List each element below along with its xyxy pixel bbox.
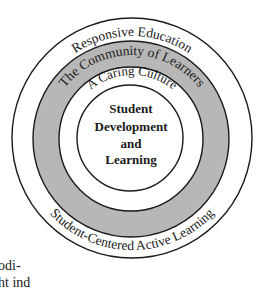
body-text-fragment-2: ht ind [0, 274, 30, 291]
center-label-line-2: Development [95, 119, 169, 134]
center-label-line-1: Student [109, 101, 153, 116]
center-label-line-3: and [121, 136, 143, 151]
body-text-fragment-1: odi- [0, 257, 21, 275]
center-label-line-4: Learning [105, 152, 157, 167]
